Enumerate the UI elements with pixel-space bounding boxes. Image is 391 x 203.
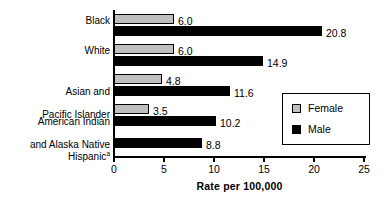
x-tick-label-20: 20 bbox=[299, 163, 329, 175]
bar-white-female bbox=[114, 44, 174, 54]
legend-swatch-male-icon bbox=[292, 125, 301, 134]
bar-value-white-male: 14.9 bbox=[267, 58, 287, 68]
bar-value-asian-female: 4.8 bbox=[166, 76, 181, 86]
legend-item-male: Male bbox=[292, 124, 331, 135]
bar-white-male bbox=[114, 56, 263, 66]
x-tick-20 bbox=[313, 157, 315, 162]
legend-label-female: Female bbox=[308, 103, 343, 114]
category-axis-labels: Black White Asian and Pacific Islander A… bbox=[0, 0, 110, 160]
bar-american-indian-female bbox=[114, 104, 149, 114]
category-label-hispanic-text: Hispanic bbox=[68, 151, 106, 162]
x-tick-5 bbox=[163, 157, 165, 162]
bar-value-american-indian-female: 3.5 bbox=[153, 106, 168, 116]
category-label-amind-line1: American Indian bbox=[38, 116, 110, 127]
x-tick-label-0: 0 bbox=[99, 163, 129, 175]
bar-american-indian-male bbox=[114, 116, 216, 126]
x-tick-label-10: 10 bbox=[199, 163, 229, 175]
category-label-hispanic: Hispanica bbox=[0, 139, 110, 162]
x-tick-0 bbox=[113, 157, 115, 162]
bar-asian-male bbox=[114, 86, 230, 96]
bar-hispanic-male bbox=[114, 138, 202, 148]
bar-value-american-indian-male: 10.2 bbox=[220, 118, 240, 128]
x-tick-15 bbox=[263, 157, 265, 162]
bar-black-female bbox=[114, 14, 174, 24]
category-label-asian-line1: Asian and bbox=[66, 86, 110, 97]
legend-swatch-female-icon bbox=[292, 104, 301, 113]
footnote-marker-a: a bbox=[106, 149, 110, 156]
legend-item-female: Female bbox=[292, 103, 343, 114]
legend: Female Male bbox=[282, 93, 370, 145]
bar-value-hispanic-male: 8.8 bbox=[206, 140, 221, 150]
bar-value-white-female: 6.0 bbox=[178, 46, 193, 56]
legend-label-male: Male bbox=[308, 124, 331, 135]
x-axis-line bbox=[113, 156, 366, 158]
x-tick-label-25: 25 bbox=[349, 163, 379, 175]
category-label-white: White bbox=[0, 45, 110, 57]
x-tick-label-5: 5 bbox=[149, 163, 179, 175]
x-tick-25 bbox=[363, 157, 365, 162]
bar-value-black-female: 6.0 bbox=[178, 16, 193, 26]
x-axis-title: Rate per 100,000 bbox=[113, 180, 366, 192]
category-label-black: Black bbox=[0, 15, 110, 27]
x-tick-label-15: 15 bbox=[249, 163, 279, 175]
bar-black-male bbox=[114, 26, 322, 36]
x-tick-10 bbox=[213, 157, 215, 162]
bar-chart: Black White Asian and Pacific Islander A… bbox=[0, 0, 391, 203]
bar-value-asian-male: 11.6 bbox=[234, 88, 254, 98]
bar-value-black-male: 20.8 bbox=[326, 28, 346, 38]
bar-asian-female bbox=[114, 74, 162, 84]
